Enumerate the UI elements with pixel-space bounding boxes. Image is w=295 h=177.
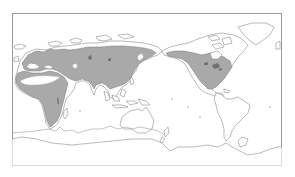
world-distribution-map [12, 13, 282, 166]
south-america [214, 89, 250, 141]
australia [120, 107, 169, 143]
